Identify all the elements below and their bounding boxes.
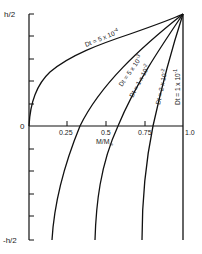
- curve-dt-1e-2: [95, 14, 183, 240]
- curve-label-dt-1e-1: Dt = 1 x 10-1: [172, 69, 181, 105]
- x-tick-label-025: 0.25: [59, 129, 73, 136]
- y-label-top: h/2: [4, 10, 16, 19]
- y-label-bottom: -h/2: [3, 236, 17, 245]
- concentration-profile-chart: h/2 0 -h/2 0.25 0.5 0.75 1.0 M/M∞ Dt = 5…: [0, 0, 202, 254]
- x-tick-label-05: 0.5: [101, 129, 111, 136]
- x-tick-label-075: 0.75: [138, 129, 152, 136]
- x-axis-title: M/M∞: [96, 138, 114, 147]
- y-ticks: [29, 14, 34, 240]
- y-label-zero: 0: [20, 122, 25, 131]
- x-tick-label-10: 1.0: [185, 129, 195, 136]
- curve-dt-2e-2: [142, 14, 183, 240]
- x-ticks: [67, 121, 145, 126]
